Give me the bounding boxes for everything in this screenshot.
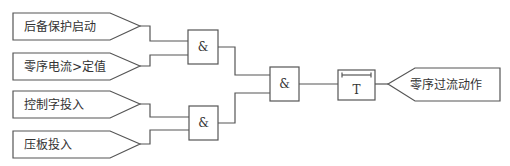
output-zero-seq-overcurrent-trip: 零序过流动作	[388, 68, 500, 101]
and-gate-3: &	[270, 67, 299, 101]
input-label: 压板投入	[24, 137, 72, 152]
timer-block: T	[338, 70, 375, 100]
input-control-word-enabled: 控制字投入	[13, 91, 140, 118]
input-backup-protection-start: 后备保护启动	[13, 13, 140, 40]
and-gate-label: &	[279, 77, 290, 91]
wire-in1-and1	[140, 26, 188, 41]
and-gate-label: &	[198, 116, 209, 130]
logic-diagram: 后备保护启动 零序电流>定值 控制字投入 压板投入 & & &	[0, 0, 510, 166]
and-gate-label: &	[198, 40, 209, 54]
wire-and1-and3	[218, 47, 270, 75]
wire-and2-and3	[218, 93, 270, 123]
wire-in3-and2	[140, 104, 189, 117]
input-label: 控制字投入	[24, 97, 84, 112]
and-gate-1: &	[188, 30, 218, 64]
input-pressure-plate-enabled: 压板投入	[13, 131, 140, 158]
input-zero-seq-current-over-setting: 零序电流>定值	[13, 53, 140, 80]
timer-label: T	[352, 83, 360, 97]
wire-in2-and1	[140, 55, 188, 66]
input-label: 后备保护启动	[24, 20, 96, 34]
output-label: 零序过流动作	[410, 77, 482, 92]
and-gate-2: &	[189, 106, 218, 140]
input-label: 零序电流>定值	[24, 59, 106, 74]
wire-in4-and2	[140, 130, 189, 144]
